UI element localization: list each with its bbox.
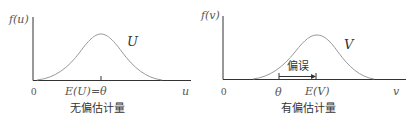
right-origin-label: 0	[221, 86, 227, 97]
left-chart	[33, 17, 191, 81]
right-chart	[223, 16, 406, 80]
bias-arrowhead-icon	[311, 74, 316, 79]
left-y-axis-label: f(u)	[9, 14, 29, 25]
right-curve-label: V	[344, 38, 353, 51]
theta-label: θ	[275, 87, 282, 98]
bias-label: 偏误	[287, 61, 309, 72]
estimator-bias-diagram: f(u) U 0 E(U)=θ u 无偏估计量 f(v) V 偏误 0 θ E(…	[0, 0, 407, 123]
right-y-axis-label: f(v)	[201, 10, 220, 21]
left-density-curve	[37, 34, 162, 80]
left-curve-label: U	[127, 35, 138, 48]
left-origin-label: 0	[31, 86, 37, 97]
right-x-axis-label: v	[393, 86, 399, 97]
right-caption: 有偏估计量	[281, 103, 336, 114]
left-caption: 无偏估计量	[70, 103, 125, 114]
left-mean-label: E(U)=θ	[65, 86, 107, 97]
right-mean-label: E(V)	[305, 86, 330, 97]
right-density-curve	[253, 35, 374, 79]
left-x-axis-label: u	[182, 86, 189, 97]
